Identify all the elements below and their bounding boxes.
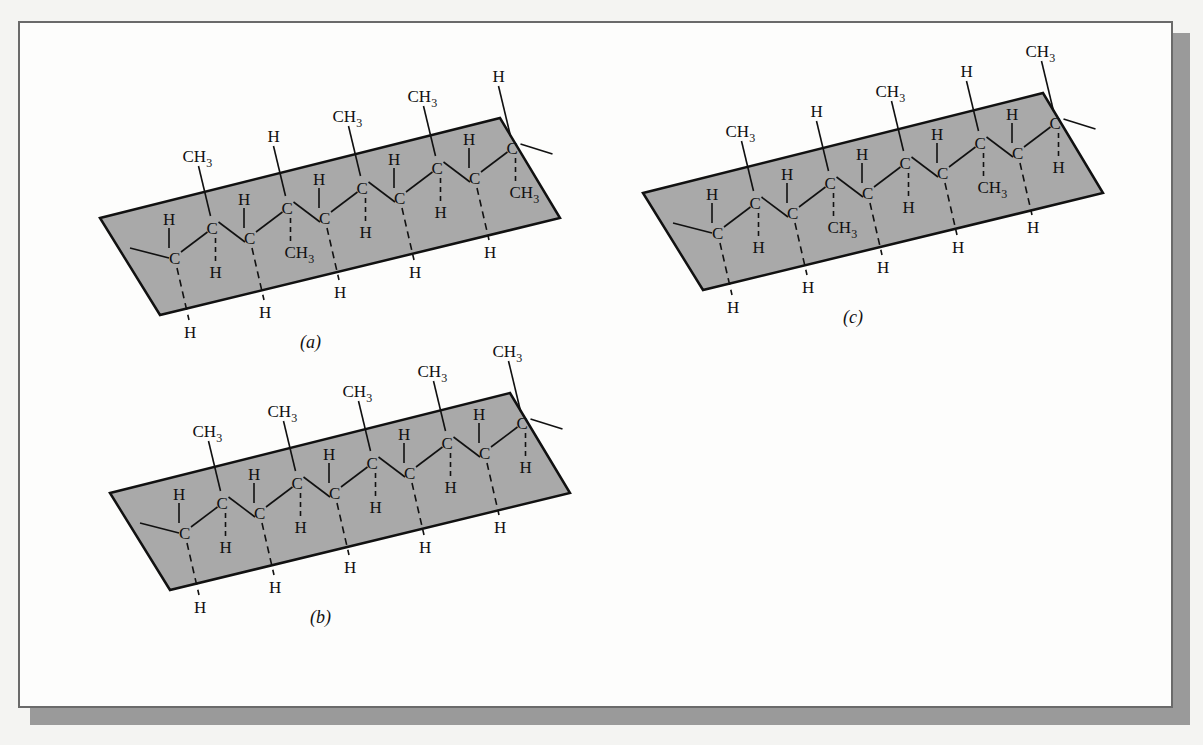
hydrogen-atom: H	[398, 425, 410, 444]
hydrogen-atom: H	[931, 125, 943, 144]
hydrogen-atom: H	[184, 323, 196, 342]
carbon-atom: C	[712, 224, 723, 243]
carbon-atom: C	[394, 189, 405, 208]
hydrogen-atom: H	[323, 445, 335, 464]
hydrogen-atom: H	[360, 223, 372, 242]
hydrogen-atom: H	[173, 485, 185, 504]
hydrogen-atom: H	[706, 185, 718, 204]
methyl-group: CH3	[333, 107, 363, 130]
carbon-atom: C	[329, 484, 340, 503]
panel-caption: (b)	[310, 607, 331, 628]
carbon-atom: C	[479, 444, 490, 463]
carbon-atom: C	[787, 204, 798, 223]
carbon-atom: C	[937, 164, 948, 183]
carbon-atom: C	[825, 174, 836, 193]
hydrogen-atom: H	[781, 165, 793, 184]
hydrogen-atom: H	[1006, 105, 1018, 124]
hydrogen-atom: H	[877, 258, 889, 277]
carbon-atom: C	[442, 434, 453, 453]
hydrogen-atom: H	[463, 130, 475, 149]
panel-a-syndiotactic: CHHCCH3HCHHCHCH3CHHCCH3HCHHCCH3HCHHCHCH3…	[100, 67, 560, 353]
hydrogen-atom: H	[493, 67, 505, 86]
carbon-atom: C	[1012, 144, 1023, 163]
carbon-atom: C	[282, 199, 293, 218]
hydrogen-atom: H	[727, 298, 739, 317]
hydrogen-atom: H	[961, 62, 973, 81]
carbon-atom: C	[179, 524, 190, 543]
carbon-atom: C	[292, 474, 303, 493]
carbon-atom: C	[900, 154, 911, 173]
hydrogen-atom: H	[194, 598, 206, 617]
carbon-atom: C	[254, 504, 265, 523]
hydrogen-atom: H	[484, 243, 496, 262]
hydrogen-atom: H	[409, 263, 421, 282]
methyl-group: CH3	[183, 147, 213, 170]
hydrogen-atom: H	[238, 190, 250, 209]
methyl-group: CH3	[726, 122, 756, 145]
hydrogen-atom: H	[344, 558, 356, 577]
hydrogen-atom: H	[952, 238, 964, 257]
hydrogen-atom: H	[811, 102, 823, 121]
panel-b-isotactic: CHHCCH3HCHHCCH3HCHHCCH3HCHHCCH3HCHHCCH3H…	[110, 342, 570, 628]
hydrogen-atom: H	[1027, 218, 1039, 237]
panel-c-atactic: CHHCCH3HCHHCHCH3CHHCCH3HCHHCHCH3CHHCCH3H…	[643, 42, 1103, 328]
hydrogen-atom: H	[435, 203, 447, 222]
carbon-atom: C	[1050, 114, 1061, 133]
hydrogen-atom: H	[163, 210, 175, 229]
hydrogen-atom: H	[334, 283, 346, 302]
carbon-atom: C	[975, 134, 986, 153]
carbon-atom: C	[469, 169, 480, 188]
hydrogen-atom: H	[1053, 158, 1065, 177]
hydrogen-atom: H	[220, 538, 232, 557]
hydrogen-atom: H	[903, 198, 915, 217]
carbon-atom: C	[217, 494, 228, 513]
hydrogen-atom: H	[494, 518, 506, 537]
hydrogen-atom: H	[370, 498, 382, 517]
carbon-atom: C	[404, 464, 415, 483]
hydrogen-atom: H	[259, 303, 271, 322]
hydrogen-atom: H	[268, 127, 280, 146]
carbon-atom: C	[432, 159, 443, 178]
carbon-atom: C	[319, 209, 330, 228]
panel-caption: (c)	[843, 307, 863, 328]
hydrogen-atom: H	[473, 405, 485, 424]
methyl-group: CH3	[1026, 42, 1056, 65]
methyl-group: CH3	[268, 402, 298, 425]
hydrogen-atom: H	[856, 145, 868, 164]
methyl-group: CH3	[876, 82, 906, 105]
carbon-atom: C	[367, 454, 378, 473]
carbon-atom: C	[244, 229, 255, 248]
carbon-atom: C	[507, 139, 518, 158]
hydrogen-atom: H	[753, 238, 765, 257]
carbon-atom: C	[357, 179, 368, 198]
methyl-group: CH3	[408, 87, 438, 110]
hydrogen-atom: H	[210, 263, 222, 282]
polymer-tacticity-figure: CHHCCH3HCHHCHCH3CHHCCH3HCHHCCH3HCHHCHCH3…	[0, 0, 1203, 745]
panel-caption: (a)	[300, 332, 321, 353]
carbon-atom: C	[517, 414, 528, 433]
carbon-atom: C	[169, 249, 180, 268]
hydrogen-atom: H	[388, 150, 400, 169]
carbon-atom: C	[862, 184, 873, 203]
hydrogen-atom: H	[248, 465, 260, 484]
hydrogen-atom: H	[802, 278, 814, 297]
methyl-group: CH3	[493, 342, 523, 365]
hydrogen-atom: H	[520, 458, 532, 477]
methyl-group: CH3	[418, 362, 448, 385]
hydrogen-atom: H	[445, 478, 457, 497]
carbon-atom: C	[207, 219, 218, 238]
hydrogen-atom: H	[419, 538, 431, 557]
hydrogen-atom: H	[295, 518, 307, 537]
methyl-group: CH3	[193, 422, 223, 445]
carbon-atom: C	[750, 194, 761, 213]
hydrogen-atom: H	[269, 578, 281, 597]
hydrogen-atom: H	[313, 170, 325, 189]
methyl-group: CH3	[343, 382, 373, 405]
